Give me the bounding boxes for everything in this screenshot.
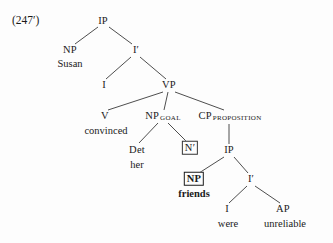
tree-node-v: V xyxy=(101,111,109,122)
node-label-v: V xyxy=(101,110,109,121)
node-label-ip-root: IP xyxy=(98,15,108,26)
node-label-cp-prop: CP xyxy=(198,110,211,121)
tree-node-np-goal: NPGOAL xyxy=(145,111,180,122)
tree-edge-ibar-to-i xyxy=(106,57,131,79)
tree-node-np-subj: NP xyxy=(63,45,77,56)
node-subscript-cp-prop: PROPOSITION xyxy=(213,114,262,122)
tree-edge-ibar-to-vp xyxy=(140,57,166,79)
tree-edge-ibar-emb-to-i xyxy=(229,186,247,203)
node-label-i-matrix: I xyxy=(102,79,106,90)
node-label-det: Det xyxy=(129,144,145,155)
node-label-ibar: I′ xyxy=(133,44,139,55)
tree-node-i-embedded: I xyxy=(225,204,229,215)
tree-edge-vp-to-np-goal xyxy=(164,92,168,110)
tree-node-np-friends: NP xyxy=(184,174,204,185)
tree-edge-ibar-emb-to-ap xyxy=(255,186,280,203)
tree-terminal-friends: friends xyxy=(178,189,210,200)
node-label-ibar-emb: I′ xyxy=(248,173,254,184)
node-label-nbar: N′ xyxy=(182,141,198,155)
node-label-ip-embedded: IP xyxy=(224,144,234,155)
tree-terminal-were: were xyxy=(218,219,238,230)
tree-node-vp: VP xyxy=(162,80,176,91)
tree-node-ip-embedded: IP xyxy=(224,145,234,156)
node-label-np-goal: NP xyxy=(145,110,159,121)
syntax-tree-figure: (247′) IPNPI′IVPVNPGOALCPPROPOSITIONDetN… xyxy=(0,0,333,243)
tree-node-i-matrix: I xyxy=(102,80,106,91)
tree-edge-np-goal-to-nbar xyxy=(168,123,186,141)
tree-terminal-unreliable: unreliable xyxy=(264,219,306,230)
node-label-ap: AP xyxy=(276,203,290,214)
node-label-i-embedded: I xyxy=(225,203,229,214)
tree-edge-ip-emb-to-np xyxy=(199,157,224,173)
node-label-vp: VP xyxy=(162,79,176,90)
tree-edge-vp-to-cp xyxy=(175,92,224,110)
tree-terminal-susan: Susan xyxy=(57,59,82,70)
tree-edge-np-goal-to-det xyxy=(139,123,158,143)
tree-node-det: Det xyxy=(129,145,145,156)
tree-edge-vp-to-v xyxy=(108,92,163,110)
tree-node-ibar: I′ xyxy=(133,45,139,56)
tree-node-ibar-emb: I′ xyxy=(248,174,254,185)
tree-edge-ip-to-np-subj xyxy=(75,27,98,44)
tree-node-ip-root: IP xyxy=(98,16,108,27)
tree-node-cp-prop: CPPROPOSITION xyxy=(198,111,261,122)
node-subscript-np-goal: GOAL xyxy=(160,114,181,122)
node-label-np-subj: NP xyxy=(63,44,77,55)
tree-edge-ip-to-ibar xyxy=(109,27,132,44)
tree-node-ap: AP xyxy=(276,204,290,215)
tree-node-nbar: N′ xyxy=(182,143,198,154)
tree-terminal-convinced: convinced xyxy=(84,126,127,137)
tree-edge-ip-emb-to-ibar xyxy=(234,157,248,173)
node-label-np-friends: NP xyxy=(184,172,204,186)
tree-terminal-her: her xyxy=(130,160,143,171)
